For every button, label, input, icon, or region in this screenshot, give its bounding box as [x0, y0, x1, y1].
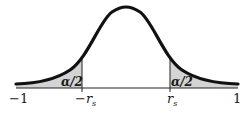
- left-tail-label: α/2: [61, 75, 83, 89]
- bell-curve: [16, 7, 238, 84]
- axis-label-one: 1: [233, 91, 240, 106]
- right-tail-label: α/2: [171, 75, 193, 89]
- distribution-diagram: α/2 α/2 −1 −rs rs 1: [0, 0, 240, 115]
- axis-label-pos-critical: rs: [167, 91, 177, 108]
- axis-label-neg-critical: −rs: [75, 91, 96, 108]
- axis-label-minus-one: −1: [9, 91, 28, 106]
